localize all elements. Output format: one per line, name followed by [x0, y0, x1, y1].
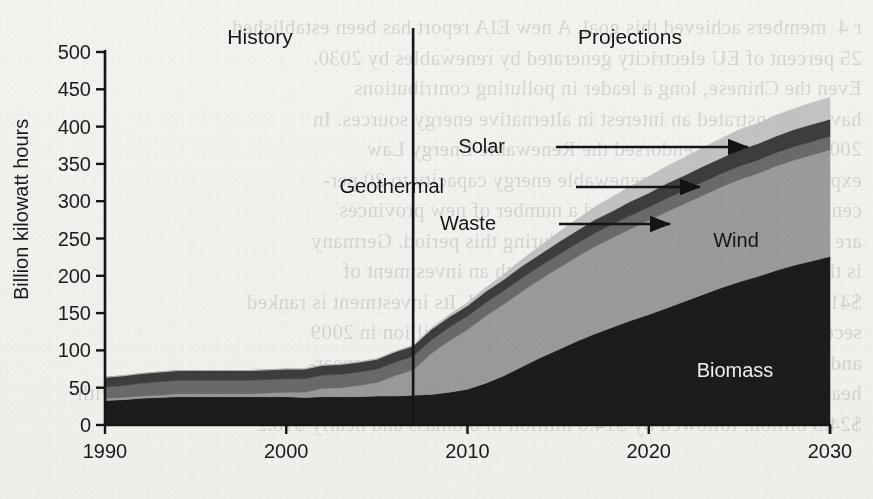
- renewable-generation-stacked-area-chart: 050100150200250300350400450500 199020002…: [0, 0, 873, 499]
- y-tick-label: 100: [58, 339, 91, 361]
- period-label-projections: Projections: [578, 25, 682, 48]
- y-tick-label: 450: [58, 78, 91, 100]
- y-tick-label: 500: [58, 41, 91, 63]
- label-biomass: Biomass: [697, 359, 774, 381]
- y-axis-ticks: 050100150200250300350400450500: [58, 41, 105, 436]
- x-axis-ticks: 19902000201020202030: [83, 425, 853, 462]
- label-geothermal: Geothermal: [340, 175, 445, 197]
- period-labels: HistoryProjections: [227, 25, 682, 48]
- x-tick-label: 1990: [83, 440, 128, 462]
- x-tick-label: 2010: [445, 440, 490, 462]
- label-solar: Solar: [458, 135, 505, 157]
- figure-page: r 4 members achieved this goal. A new EI…: [0, 0, 873, 499]
- y-tick-label: 200: [58, 265, 91, 287]
- y-tick-label: 350: [58, 153, 91, 175]
- x-tick-label: 2030: [808, 440, 853, 462]
- x-tick-label: 2000: [264, 440, 309, 462]
- y-axis-title: Billion kilowatt hours: [10, 119, 32, 300]
- period-label-history: History: [227, 25, 293, 48]
- label-waste: Waste: [440, 212, 496, 234]
- y-tick-label: 50: [69, 377, 91, 399]
- y-tick-label: 400: [58, 116, 91, 138]
- y-tick-label: 150: [58, 302, 91, 324]
- x-tick-label: 2020: [627, 440, 672, 462]
- label-wind: Wind: [713, 229, 759, 251]
- y-tick-label: 300: [58, 190, 91, 212]
- y-tick-label: 0: [80, 414, 91, 436]
- y-tick-label: 250: [58, 228, 91, 250]
